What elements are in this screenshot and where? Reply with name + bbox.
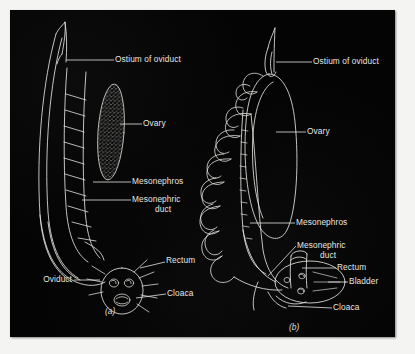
caption-panel-b: (b) <box>289 322 299 332</box>
label-mesonephric-duct-b: Mesonephric <box>297 240 346 250</box>
panel-a-drawing <box>39 22 158 314</box>
label-cloaca-a: Cloaca <box>167 288 193 298</box>
label-mesonephros-b: Mesonephros <box>296 217 347 227</box>
figure-plate: Ostium of oviduct Ovary Mesonephros Meso… <box>10 10 395 337</box>
label-mesonephros-a: Mesonephros <box>132 176 183 186</box>
page-canvas: Ostium of oviduct Ovary Mesonephros Meso… <box>0 0 415 354</box>
label-mesonephric-duct-a: Mesonephric <box>132 194 181 204</box>
label-ostium-of-oviduct-a: Ostium of oviduct <box>115 54 181 64</box>
label-mesonephric-duct-a-line2: duct <box>132 204 194 214</box>
label-ovary-a: Ovary <box>143 118 166 128</box>
label-oviduct-a: Oviduct <box>43 274 72 284</box>
panel-b-leaders <box>250 62 348 308</box>
label-ostium-of-oviduct-b: Ostium of oviduct <box>313 56 379 66</box>
label-cloaca-b: Cloaca <box>333 302 359 312</box>
caption-panel-a: (a) <box>105 306 115 316</box>
label-bladder-b: Bladder <box>349 276 378 286</box>
label-rectum-b: Rectum <box>337 262 366 272</box>
label-rectum-a: Rectum <box>166 255 195 265</box>
label-mesonephric-duct-b-line2: duct <box>297 250 359 260</box>
label-ovary-b: Ovary <box>307 126 330 136</box>
